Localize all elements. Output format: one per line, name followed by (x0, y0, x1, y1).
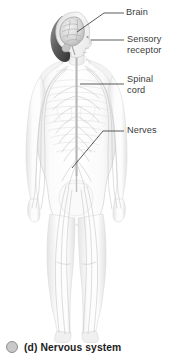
label-brain: Brain (126, 7, 148, 18)
circle-bullet-icon (6, 341, 18, 353)
spinal-cord (76, 50, 77, 192)
figure-caption-text: (d) Nervous system (24, 342, 121, 353)
label-nerves: Nerves (127, 125, 157, 136)
sensory-receptor-point (86, 36, 88, 38)
anatomy-illustration (0, 0, 191, 362)
label-sensory-receptor: Sensory receptor (127, 34, 162, 55)
head-profile (50, 12, 91, 62)
figure-caption: (d) Nervous system (6, 341, 121, 353)
nervous-system-figure: Brain Sensory receptor Spinal cord Nerve… (0, 0, 191, 362)
label-spinal-cord: Spinal cord (127, 74, 153, 95)
